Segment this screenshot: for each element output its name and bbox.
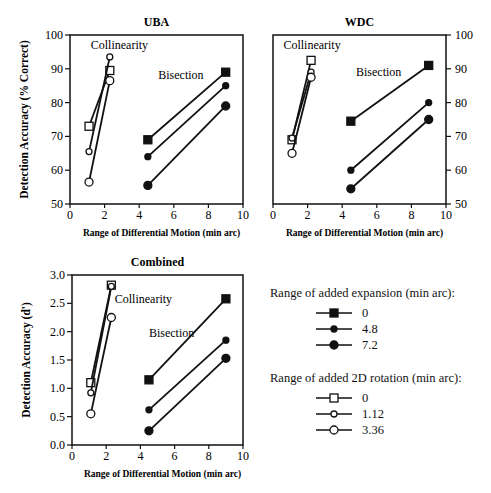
x-axis-label: Range of Differential Motion (min arc) <box>286 228 443 239</box>
x-tick-label: 2 <box>305 208 311 222</box>
filled-diamond-marker-icon <box>145 154 151 160</box>
filled-circle-marker-icon <box>222 354 230 362</box>
series-rotation-0 <box>87 281 116 386</box>
chart-title: WDC <box>345 15 374 29</box>
filled-circle-marker-icon <box>425 116 433 124</box>
open-circle-marker-icon <box>87 410 95 418</box>
x-tick-label: 0 <box>69 449 75 463</box>
open-circle-marker-icon <box>316 424 352 436</box>
x-tick-label: 6 <box>172 449 178 463</box>
open-diamond-marker-icon <box>86 149 92 155</box>
x-tick-label: 2 <box>102 208 108 222</box>
chart-wdc: WDC02468105060708090100Range of Differen… <box>270 15 473 239</box>
filled-square-marker-icon <box>347 117 355 125</box>
annotation-collinearity: Collinearity <box>91 38 148 52</box>
open-circle-marker-icon <box>106 77 114 85</box>
filled-diamond-marker-icon <box>223 83 229 89</box>
open-diamond-marker-icon <box>331 411 337 417</box>
y-tick-label: 60 <box>455 163 467 177</box>
filled-square-marker-icon <box>222 68 230 76</box>
y-tick-label: 100 <box>455 28 473 42</box>
open-square-marker-icon <box>85 122 93 130</box>
filled-circle-marker-icon <box>144 181 152 189</box>
annotation-collinearity: Collinearity <box>115 292 172 306</box>
x-axis-label: Range of Differential Motion (min arc) <box>84 469 241 480</box>
y-tick-label: 70 <box>51 129 63 143</box>
plot-frame <box>273 35 446 204</box>
x-tick-label: 6 <box>171 208 177 222</box>
filled-circle-marker-icon <box>316 339 352 351</box>
y-tick-label: 50 <box>51 197 63 211</box>
y-tick-label: 70 <box>455 129 467 143</box>
filled-diamond-marker-icon <box>331 326 337 332</box>
x-tick-label: 10 <box>440 208 452 222</box>
legend-label: 3.36 <box>362 423 384 438</box>
filled-square-marker-icon <box>222 295 230 303</box>
y-tick-label: 90 <box>51 62 63 76</box>
y-tick-label: 1.0 <box>50 381 65 395</box>
y-tick-label: 3.0 <box>50 268 65 282</box>
filled-square-marker-icon <box>316 307 352 319</box>
x-tick-label: 8 <box>408 208 414 222</box>
filled-diamond-marker-icon <box>223 337 229 343</box>
filled-circle-marker-icon <box>330 341 338 349</box>
filled-circle-marker-icon <box>347 185 355 193</box>
y-tick-label: 80 <box>455 96 467 110</box>
x-axis-label: Range of Differential Motion (min arc) <box>83 228 240 239</box>
chart-combined: Combined02468100.00.51.01.52.02.53.0Rang… <box>20 255 249 480</box>
x-tick-label: 4 <box>137 449 143 463</box>
chart-title: Combined <box>131 255 185 269</box>
y-tick-label: 0.5 <box>50 410 65 424</box>
series-expansion-4-8 <box>146 337 229 413</box>
x-tick-label: 4 <box>136 208 142 222</box>
x-tick-label: 0 <box>67 208 73 222</box>
series-expansion-7-2 <box>145 354 230 435</box>
open-diamond-marker-icon <box>289 135 295 141</box>
open-square-marker-icon <box>316 392 352 404</box>
filled-circle-marker-icon <box>145 427 153 435</box>
legend-label: 7.2 <box>362 338 378 353</box>
open-circle-marker-icon <box>307 73 315 81</box>
open-square-marker-icon <box>307 56 315 64</box>
y-tick-label: 90 <box>455 62 467 76</box>
filled-diamond-marker-icon <box>146 407 152 413</box>
legend-rotation-group: Range of added 2D rotation (min arc): 0 … <box>270 371 462 438</box>
y-tick-label: 50 <box>455 197 467 211</box>
y-tick-label: 100 <box>45 28 63 42</box>
y-tick-label: 80 <box>51 96 63 110</box>
open-diamond-marker-icon <box>107 54 113 60</box>
x-tick-label: 4 <box>339 208 345 222</box>
y-tick-label: 2.0 <box>50 325 65 339</box>
open-diamond-marker-icon <box>88 390 94 396</box>
filled-square-marker-icon <box>145 376 153 384</box>
legend: Range of added expansion (min arc): 0 4.… <box>270 286 462 438</box>
series-expansion-7-2 <box>347 116 433 193</box>
legend-label: 4.8 <box>362 322 378 337</box>
y-axis-label: Detection Accuracy (d') <box>20 302 33 418</box>
filled-square-marker-icon <box>144 136 152 144</box>
legend-expansion-group: Range of added expansion (min arc): 0 4.… <box>270 286 462 353</box>
open-circle-marker-icon <box>107 314 115 322</box>
open-circle-marker-icon <box>288 149 296 157</box>
annotation-bisection: Bisection <box>158 68 203 82</box>
annotation-bisection: Bisection <box>356 65 401 79</box>
series-expansion-4-8 <box>145 83 229 160</box>
series-expansion-7-2 <box>144 102 230 189</box>
y-tick-label: 1.5 <box>50 353 65 367</box>
open-diamond-marker-icon <box>316 408 352 420</box>
open-square-marker-icon <box>330 394 338 402</box>
x-tick-label: 2 <box>103 449 109 463</box>
filled-square-marker-icon <box>425 61 433 69</box>
chart-uba: UBA02468105060708090100Range of Differen… <box>18 15 249 239</box>
series-rotation-3-36 <box>288 73 315 157</box>
open-circle-marker-icon <box>85 178 93 186</box>
series-rotation-3-36 <box>85 77 114 186</box>
legend-item-rotation-1-12: 1.12 <box>270 406 462 422</box>
legend-rotation-title: Range of added 2D rotation (min arc): <box>270 371 462 386</box>
filled-square-marker-icon <box>330 309 338 317</box>
filled-diamond-marker-icon <box>348 167 354 173</box>
annotation-collinearity: Collinearity <box>283 38 340 52</box>
series-rotation-3-36 <box>87 314 116 418</box>
legend-label: 1.12 <box>362 407 384 422</box>
y-axis-label: Detection Accuracy (% Correct) <box>18 40 31 199</box>
